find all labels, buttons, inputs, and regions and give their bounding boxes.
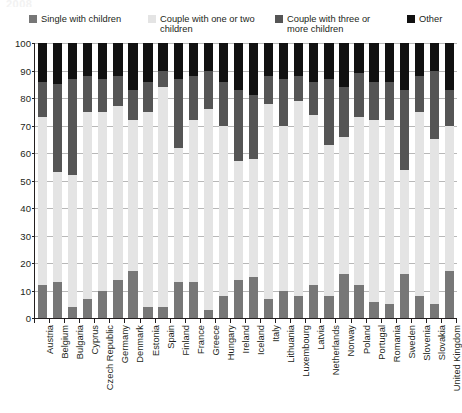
bar-segment [158,87,167,307]
bar-segment [128,43,137,90]
bar-segment [264,299,273,318]
bar-segment [189,43,198,76]
x-axis-label-estonia: Estonia [151,325,161,356]
bar-segment [204,71,213,110]
bar-segment [445,90,454,126]
x-axis-tick [260,319,261,323]
bar-netherlands [324,43,333,318]
bar-segment [174,148,183,283]
bar-germany [113,43,122,318]
bar-luxembourg [294,43,303,318]
bar-segment [143,43,152,82]
bar-segment [309,285,318,318]
bar-segment [430,139,439,304]
bar-segment [143,82,152,112]
y-axis-tick-label: 30 [20,230,31,241]
bar-segment [249,159,258,277]
bar-segment [354,117,363,285]
bar-segment [279,291,288,319]
bar-segment [430,43,439,71]
bar-segment [415,296,424,318]
bar-segment [38,117,47,285]
x-axis-tick [155,319,156,323]
bar-latvia [309,43,318,318]
bar-segment [415,112,424,296]
y-axis-tick-label: 60 [20,148,31,159]
x-axis-tick [426,319,427,323]
x-axis-label-czech-republic: Czech Republic [105,325,115,390]
bar-portugal [369,43,378,318]
bar-segment [174,43,183,79]
bar-segment [430,304,439,318]
x-axis-label-france: France [196,325,206,354]
bar-segment [113,280,122,319]
bar-segment [83,43,92,76]
bar-finland [174,43,183,318]
bar-segment [324,43,333,79]
bar-belgium [53,43,62,318]
x-axis-label-latvia: Latvia [316,325,326,350]
x-axis-label-germany: Germany [120,325,130,363]
x-axis-tick [320,319,321,323]
bar-norway [339,43,348,318]
bar-segment [324,296,333,318]
bar-segment [53,84,62,172]
bar-segment [83,299,92,318]
x-axis-label-lithuania: Lithuania [286,325,296,363]
x-axis-tick [79,319,80,323]
x-axis-tick [366,319,367,323]
bar-segment [68,175,77,307]
x-axis-label-sweden: Sweden [407,325,417,359]
x-axis-label-hungary: Hungary [226,325,236,360]
bar-segment [113,43,122,76]
bar-segment [98,291,107,319]
bar-segment [189,120,198,282]
x-axis-tick [456,319,457,323]
plot-area: 0102030405060708090100 [34,43,457,319]
bar-segment [445,43,454,90]
legend-label-couple-three-or-more-children: Couple with three or more children [287,14,385,35]
y-axis-tick-label: 50 [20,175,31,186]
bar-segment [83,112,92,299]
bar-segment [249,277,258,318]
x-axis-tick [170,319,171,323]
x-axis-tick [411,319,412,323]
chart-title: 2008 [6,0,32,7]
x-axis-tick [230,319,231,323]
bar-segment [385,304,394,318]
bar-segment [98,79,107,112]
bar-segment [415,43,424,76]
bar-cyprus [83,43,92,318]
bar-segment [309,115,318,286]
y-axis-tick-label: 70 [20,120,31,131]
chart-legend: Single with children Couple with one or … [0,11,462,39]
bar-segment [369,43,378,82]
bar-segment [445,126,454,272]
bar-segment [83,76,92,112]
bar-segment [158,43,167,71]
x-axis-tick [305,319,306,323]
bar-segment [354,73,363,117]
legend-swatch-couple-one-or-two-children [148,15,156,23]
bar-segment [113,106,122,279]
bar-segment [354,285,363,318]
x-axis-tick [290,319,291,323]
x-axis-label-austria: Austria [45,325,55,354]
bar-segment [354,43,363,73]
bar-lithuania [279,43,288,318]
bar-segment [294,43,303,76]
bar-segment [339,43,348,87]
x-axis-label-norway: Norway [346,325,356,357]
bar-segment [385,120,394,304]
bar-segment [400,170,409,275]
bar-segment [400,43,409,90]
x-axis-tick [335,319,336,323]
bar-segment [309,43,318,82]
bar-estonia [143,43,152,318]
bar-romania [385,43,394,318]
bar-segment [294,76,303,101]
bar-austria [38,43,47,318]
x-axis-tick [275,319,276,323]
x-axis-tick [94,319,95,323]
bar-hungary [219,43,228,318]
